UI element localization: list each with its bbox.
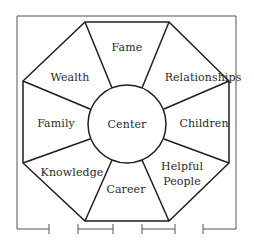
label-center: Center — [108, 118, 147, 131]
entrance-bracket-left — [78, 224, 113, 234]
label-helpful: Helpful — [161, 160, 203, 173]
entrance-bracket-right — [142, 224, 175, 234]
label-knowledge: Knowledge — [41, 166, 104, 179]
label-career: Career — [106, 183, 146, 196]
label-children: Children — [179, 117, 228, 130]
label-relationships: Relationships — [165, 71, 242, 84]
label-fame: Fame — [112, 41, 143, 54]
bagua-diagram: Fame Relationships Children Helpful Peop… — [0, 0, 254, 246]
label-wealth: Wealth — [50, 71, 89, 84]
label-people: People — [163, 175, 201, 188]
label-family: Family — [37, 117, 75, 130]
